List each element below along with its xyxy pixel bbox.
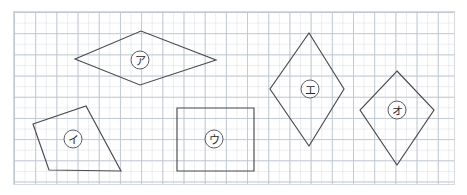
grid-paper-background <box>13 11 455 185</box>
worksheet-canvas: ア イ ウ エ オ <box>0 0 467 195</box>
